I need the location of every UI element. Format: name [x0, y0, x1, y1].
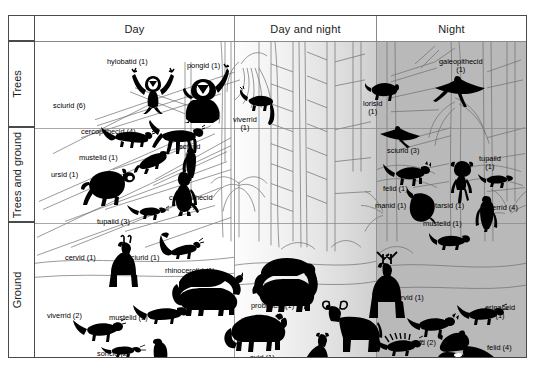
column-header-day: Day	[35, 16, 234, 42]
label-sciurid-mixed-day: sciurid (3)	[179, 143, 200, 159]
label-suid: suid (1)	[250, 354, 275, 357]
label-tarsid: tarsid (1)	[435, 202, 464, 210]
label-rhinocerotid-text: rhinocerotid (1)	[165, 266, 215, 275]
label-sciurid-mixed-night-text: sciurid (3)	[387, 146, 419, 155]
label-mustelid-mixed-day: mustelid (1)	[79, 154, 118, 162]
label-cervid-ground-night: cervid (1)	[393, 294, 424, 302]
column-header-day-and-night-text: Day and night	[270, 23, 340, 35]
animal-viverrid-ground-day	[73, 320, 127, 342]
label-mustelid-mixed-night: mustelid (1)	[423, 220, 462, 228]
animal-tupaiid-mixed-day	[127, 204, 171, 220]
label-sciurid-trees-day-text: sciurid (6)	[53, 101, 85, 110]
animal-pongid	[183, 67, 229, 123]
label-viverrid-ground-night: viverrid (2)	[401, 339, 436, 347]
label-tupaiid-mixed-night-line2: (1)	[479, 163, 501, 171]
label-cervid-ground-night-text: cervid (1)	[393, 293, 424, 302]
label-soricid: soricid (2)	[97, 350, 129, 357]
label-erinaceid: erinaceid (1)	[485, 304, 515, 320]
animal-viverrid-mixed-night	[475, 196, 499, 232]
row-label-trees-text: Trees	[11, 70, 23, 98]
label-viverrid-ground-night-text: viverrid (2)	[401, 338, 436, 347]
label-mustelid-ground-day: mustelid (3)	[109, 314, 148, 322]
label-soricid-text: soricid (2)	[97, 349, 129, 357]
label-manid: manid (1)	[375, 202, 406, 210]
column-header-day-and-night: Day and night	[235, 16, 376, 42]
label-bovid-text: bovid (1)	[345, 356, 374, 357]
column-header-night-text: Night	[438, 23, 465, 35]
row-label-ground: Ground	[0, 222, 34, 358]
label-tupaiid-mixed-night: tupaiid (1)	[479, 155, 501, 171]
label-sciurid-mixed-night: sciurid (3)	[387, 147, 419, 155]
label-lorisid-line2: (1)	[363, 108, 382, 116]
label-ursid-text: ursid (1)	[51, 170, 78, 179]
row-label-trees-and-ground-text: Trees and ground	[11, 131, 23, 217]
column-header-band: Day Day and night Night	[35, 16, 526, 42]
animal-cervid-ground-night	[365, 252, 413, 320]
label-cercopithecid-trees-day: cercopithecid (4)	[81, 128, 136, 136]
label-mustelid-ground-day-text: mustelid (3)	[109, 313, 148, 322]
label-lorisid: lorisid (1)	[363, 100, 382, 116]
label-viverrid-trees-daynight: viverrid (1)	[233, 116, 257, 132]
label-hylobatid: hylobatid (1)	[107, 58, 148, 66]
label-felid-ground-night-text: felid (4)	[487, 343, 512, 352]
animal-tupaiid-ground-day	[147, 338, 193, 357]
label-ursid: ursid (1)	[51, 171, 78, 179]
animal-tupaiid-mixed-night	[478, 172, 516, 188]
figure-canvas: Trees Trees and ground Ground Day Day an…	[0, 0, 549, 374]
animal-mustelid-mixed-night	[429, 232, 471, 250]
label-felid-ground-night: felid (4)	[487, 344, 512, 352]
label-viverrid-ground-day: viverrid (2)	[47, 312, 82, 320]
animal-mustelid-mixed-day	[134, 150, 174, 174]
animal-galeopithecid	[431, 74, 487, 108]
scene-body: hylobatid (1) pongid (1) sciurid (6) cer…	[35, 42, 526, 357]
label-viverrid-mixed-night: viverrid (4)	[483, 204, 518, 212]
animal-sciurid-mixed-night	[379, 124, 421, 148]
label-mustelid-mixed-day-text: mustelid (1)	[79, 153, 118, 162]
row-label-trees-and-ground: Trees and ground	[0, 127, 34, 222]
label-pongid-text: pongid (1)	[187, 61, 220, 70]
label-cercopithecid-mixed-day: cercopithecid (2)	[169, 194, 213, 210]
label-sciurid-ground-day-text: sciurid (1)	[127, 253, 159, 262]
row-label-ground-text: Ground	[11, 272, 23, 309]
animal-ursid	[79, 166, 135, 206]
animal-tarsid	[449, 159, 475, 203]
label-tupaiid-mixed-day-text: tupaiid (3)	[97, 217, 130, 226]
label-galeopithecid: galeopithecid (1)	[439, 58, 483, 74]
label-suid-text: suid (1)	[250, 353, 275, 357]
animal-hylobatid	[132, 68, 174, 114]
label-galeopithecid-line2: (1)	[439, 66, 483, 74]
label-cercopithecid-trees-day-text: cercopithecid (4)	[81, 127, 136, 136]
label-sciurid-ground-day: sciurid (1)	[127, 254, 159, 262]
activity-stratum-matrix: Day Day and night Night	[34, 15, 527, 358]
label-sciurid-trees-day: sciurid (6)	[53, 102, 85, 110]
label-proboscid-text: proboscid (1)	[251, 301, 294, 310]
label-rhinocerotid: rhinocerotid (1)	[165, 267, 215, 275]
label-mustelid-mixed-night-text: mustelid (1)	[423, 219, 462, 228]
animal-lorisid	[365, 79, 399, 101]
animal-sciurid-ground-day	[159, 232, 207, 260]
column-header-day-text: Day	[124, 23, 144, 35]
label-viverrid-mixed-night-text: viverrid (4)	[483, 203, 518, 212]
label-tupaiid-mixed-day: tupaiid (3)	[97, 218, 130, 226]
label-pongid: pongid (1)	[187, 62, 220, 70]
label-cervid-ground-day: cervid (1)	[65, 254, 96, 262]
label-erinaceid-line2: (1)	[485, 312, 515, 320]
label-proboscid: proboscid (1)	[251, 302, 294, 310]
label-felid-mixed-night-text: felid (1)	[383, 184, 408, 193]
label-manid-text: manid (1)	[375, 201, 406, 210]
label-viverrid-trees-daynight-line2: (1)	[233, 124, 257, 132]
stratum-box-corner	[8, 15, 34, 41]
label-sciurid-mixed-day-line2: (3)	[179, 151, 200, 159]
label-cervid-ground-day-text: cervid (1)	[65, 253, 96, 262]
label-hylobatid-text: hylobatid (1)	[107, 57, 148, 66]
label-felid-mixed-night: felid (1)	[383, 185, 408, 193]
label-tarsid-text: tarsid (1)	[435, 201, 464, 210]
row-label-trees: Trees	[0, 41, 34, 127]
label-cercopithecid-mixed-day-line2: (2)	[169, 202, 213, 210]
label-viverrid-ground-day-text: viverrid (2)	[47, 311, 82, 320]
animal-suid	[223, 310, 287, 352]
column-header-night: Night	[377, 16, 526, 42]
